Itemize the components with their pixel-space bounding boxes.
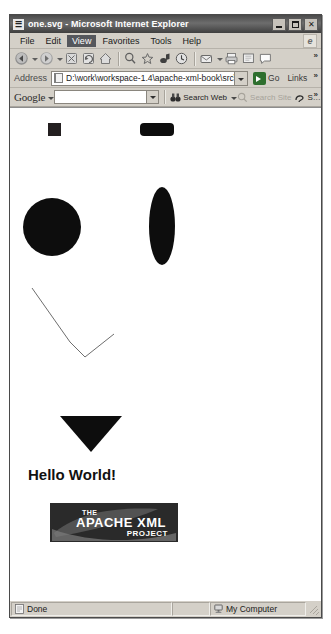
menu-item-tools[interactable]: Tools — [145, 35, 176, 47]
rounded-rect — [140, 123, 174, 136]
menu-item-file[interactable]: File — [15, 35, 40, 47]
close-button[interactable]: ✕ — [304, 18, 318, 31]
screenshot-root: ☰ one.svg - Microsoft Internet Explorer … — [0, 0, 331, 634]
search-web-label: Search Web — [183, 93, 227, 102]
search-web-dropdown-icon[interactable] — [230, 90, 237, 104]
favorites-star-icon[interactable] — [140, 51, 155, 66]
binoculars-icon — [170, 92, 181, 103]
menu-item-favorites[interactable]: Favorites — [97, 35, 144, 47]
svg-text-hello-world: Hello World! — [28, 466, 116, 483]
canvas-right-margin — [269, 108, 321, 600]
google-overflow-chevron-icon[interactable]: » — [314, 90, 318, 99]
page-icon — [15, 604, 24, 614]
google-brand-label: Google — [14, 91, 45, 103]
ie-brand-logo-icon — [303, 34, 317, 48]
status-message: Done — [27, 604, 47, 614]
toolbar-separator-2 — [194, 52, 196, 66]
print-icon[interactable] — [224, 51, 239, 66]
toolbar-separator — [118, 52, 120, 66]
google-separator — [164, 90, 166, 104]
mail-icon[interactable] — [199, 51, 214, 66]
home-icon[interactable] — [98, 51, 113, 66]
logo-line-apache-xml: APACHE XML — [76, 515, 166, 530]
discuss-icon[interactable] — [258, 51, 273, 66]
forward-dropdown-icon[interactable] — [56, 51, 62, 66]
links-button[interactable]: Links — [287, 73, 307, 83]
menu-item-edit[interactable]: Edit — [41, 35, 67, 47]
resize-grip[interactable] — [306, 602, 320, 616]
document-content-area: Hello World! THEAPACHE XMLPROJECT — [10, 107, 321, 600]
back-dropdown-icon[interactable] — [31, 51, 37, 66]
maximize-button[interactable] — [288, 18, 302, 31]
google-search-input[interactable] — [54, 90, 146, 104]
back-icon[interactable] — [14, 51, 29, 66]
browser-window: ☰ one.svg - Microsoft Internet Explorer … — [9, 14, 322, 618]
address-bar: Address D:\work\workspace-1.4\apache-xml… — [10, 69, 321, 88]
window-title: one.svg - Microsoft Internet Explorer — [28, 19, 272, 29]
search-site-button[interactable]: Search Site — [237, 92, 291, 103]
google-search-history-dropdown[interactable] — [146, 90, 159, 104]
menu-item-help[interactable]: Help — [177, 35, 206, 47]
my-computer-icon — [214, 604, 223, 614]
pagerank-icon — [294, 92, 305, 103]
go-label: Go — [268, 73, 279, 83]
security-zone-pane: My Computer — [210, 602, 306, 616]
menu-bar: File Edit View Favorites Tools Help — [10, 33, 321, 49]
forward-icon[interactable] — [39, 51, 54, 66]
title-bar[interactable]: ☰ one.svg - Microsoft Internet Explorer … — [10, 15, 321, 33]
logo-line-project: PROJECT — [127, 529, 168, 538]
mail-dropdown-icon[interactable] — [216, 51, 222, 66]
rect-square — [48, 123, 61, 136]
status-progress-pane — [172, 602, 210, 616]
ellipse — [149, 187, 175, 265]
stop-icon[interactable] — [64, 51, 79, 66]
status-message-pane: Done — [11, 602, 172, 616]
address-value: D:\work\workspace-1.4\apache-xml-book\sr… — [66, 73, 234, 83]
go-button[interactable]: Go — [253, 72, 279, 85]
window-controls: ✕ — [272, 18, 318, 31]
search-web-button[interactable]: Search Web — [170, 92, 227, 103]
toolbar-overflow-chevron-icon[interactable]: » — [314, 51, 318, 60]
refresh-icon[interactable] — [81, 51, 96, 66]
search-site-label: Search Site — [250, 93, 291, 102]
navigation-toolbar: » — [10, 49, 321, 69]
site-search-icon — [237, 92, 248, 103]
media-icon[interactable] — [157, 51, 172, 66]
svg-document-icon: ☰ — [13, 19, 24, 30]
google-toolbar: Google Search Web — [10, 88, 321, 107]
google-menu-dropdown-icon[interactable] — [47, 90, 54, 104]
search-icon[interactable] — [123, 51, 138, 66]
history-icon[interactable] — [174, 51, 189, 66]
address-label: Address — [14, 73, 47, 83]
circle — [23, 198, 81, 256]
status-bar: Done My Computer — [10, 600, 321, 617]
security-zone-label: My Computer — [226, 604, 277, 614]
apache-xml-project-logo: THEAPACHE XMLPROJECT — [50, 503, 178, 542]
page-document-icon — [54, 73, 63, 83]
go-arrow-icon — [253, 72, 266, 85]
edit-icon[interactable] — [241, 51, 256, 66]
menu-item-view[interactable]: View — [67, 35, 96, 47]
address-dropdown-button[interactable] — [234, 71, 248, 86]
minimize-button[interactable] — [272, 18, 286, 31]
address-overflow-chevron-icon[interactable]: » — [314, 71, 318, 80]
address-input[interactable]: D:\work\workspace-1.4\apache-xml-book\sr… — [51, 71, 234, 86]
